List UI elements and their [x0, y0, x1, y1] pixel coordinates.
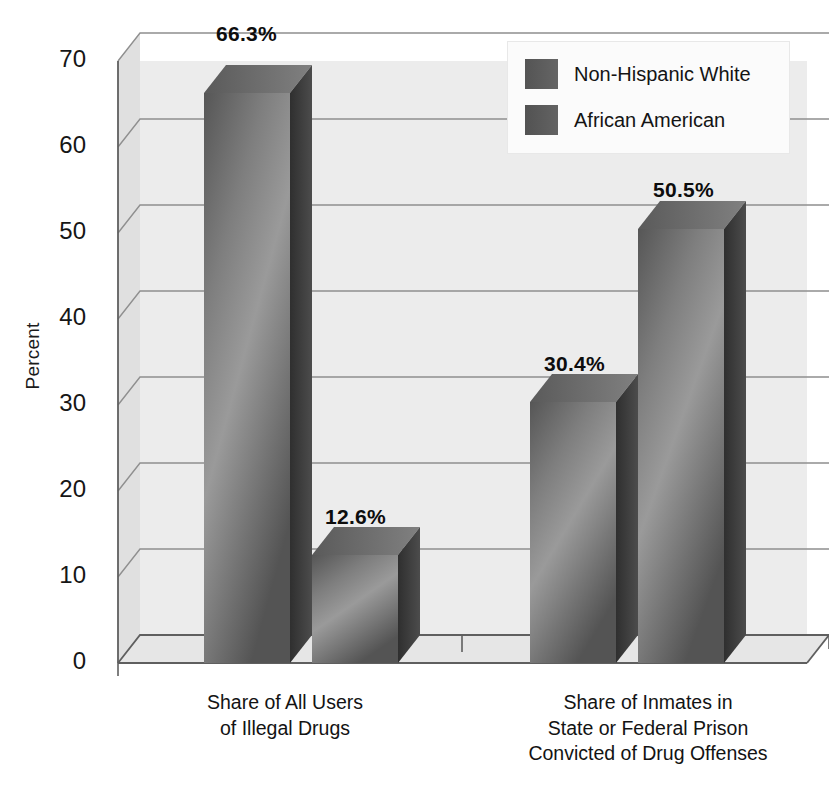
- x-category-label-drug-offense-inmates: Share of Inmates in State or Federal Pri…: [478, 690, 818, 767]
- y-tick-label-40: 40: [24, 305, 86, 329]
- bar-white-inmates[interactable]: [530, 374, 638, 663]
- data-label-black-users: 12.6%: [325, 505, 386, 529]
- y-tick-label-50: 50: [24, 219, 86, 243]
- bar-white-users[interactable]: [204, 65, 312, 663]
- bar-black-inmates[interactable]: [638, 201, 746, 663]
- y-tick-label-60: 60: [24, 133, 86, 157]
- legend-item-african-american[interactable]: African American: [525, 105, 725, 135]
- legend-swatch-icon-non-hispanic-white: [525, 59, 558, 89]
- y-tick-label-10: 10: [24, 563, 86, 587]
- chart-figure: Percent 70 60 50 40 30 20 10 0: [0, 0, 829, 809]
- y-tick-label-0: 0: [24, 649, 86, 673]
- data-label-black-inmates: 50.5%: [653, 178, 714, 202]
- data-label-white-users: 66.3%: [216, 22, 277, 46]
- legend-label-non-hispanic-white: Non-Hispanic White: [574, 63, 751, 86]
- legend-label-african-american: African American: [574, 109, 725, 132]
- chart-legend: Non-Hispanic White African American: [508, 42, 789, 153]
- plot-left-wall: [118, 33, 140, 663]
- legend-swatch-icon-african-american: [525, 105, 558, 135]
- y-tick-label-20: 20: [24, 477, 86, 501]
- x-category-label-illegal-drug-users: Share of All Users of Illegal Drugs: [140, 690, 430, 741]
- y-axis-ticks: 70 60 50 40 30 20 10 0: [12, 0, 86, 809]
- y-tick-label-30: 30: [24, 391, 86, 415]
- bar-black-users[interactable]: [312, 527, 420, 663]
- y-tick-label-70: 70: [24, 47, 86, 71]
- legend-item-non-hispanic-white[interactable]: Non-Hispanic White: [525, 59, 751, 89]
- data-label-white-inmates: 30.4%: [544, 352, 605, 376]
